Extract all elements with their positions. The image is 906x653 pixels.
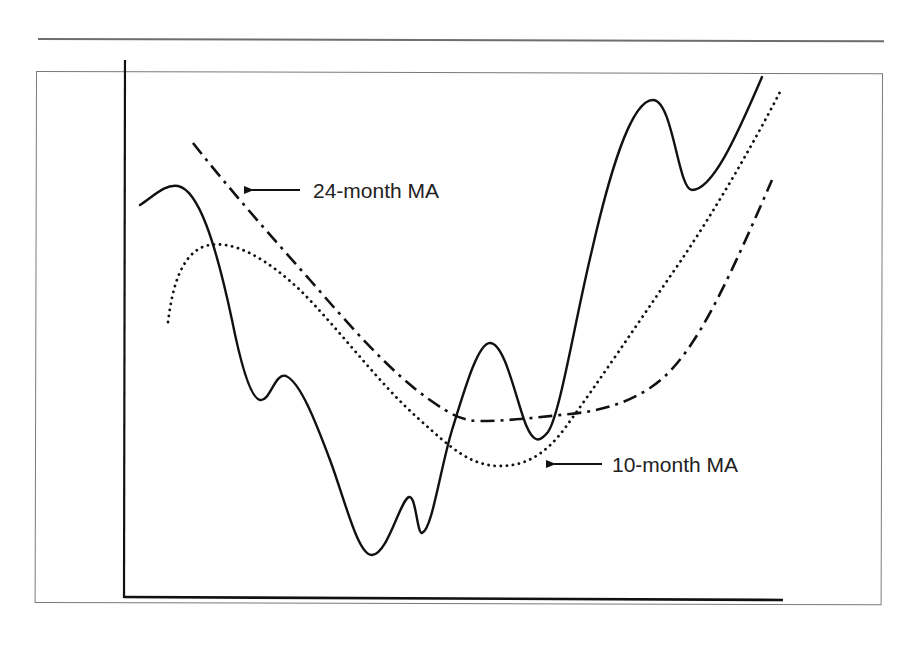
y-axis	[124, 60, 125, 598]
ma24-label: 24-month MA	[313, 179, 439, 202]
chart-plot: 24-month MA 10-month MA	[0, 0, 906, 653]
ma10-line	[168, 92, 780, 466]
ma10-label: 10-month MA	[612, 453, 738, 476]
x-axis	[124, 597, 783, 600]
price-line	[140, 77, 762, 555]
